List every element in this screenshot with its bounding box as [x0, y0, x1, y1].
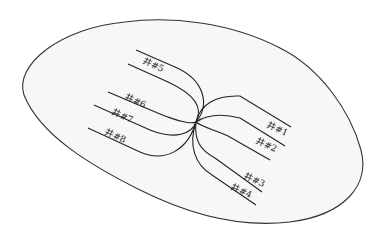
- reservoir-outline: [23, 20, 363, 224]
- well-layout-diagram: 井#5 井#6 井#7 井#8 井#1 井#2 井#3 井#4: [0, 0, 379, 240]
